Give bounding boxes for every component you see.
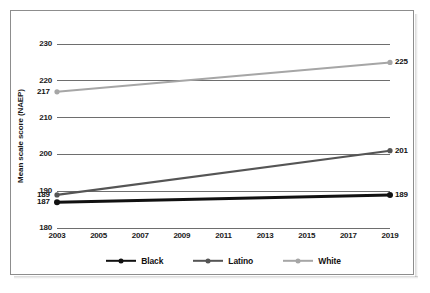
x-tick-2019: 2019 bbox=[382, 231, 399, 240]
value-label-white-2019: 225 bbox=[395, 57, 408, 66]
x-tick-2005: 2005 bbox=[90, 231, 107, 240]
series-line-latino bbox=[57, 151, 390, 195]
legend-swatch-latino-icon bbox=[193, 257, 223, 266]
legend-swatch-black-icon bbox=[106, 257, 136, 266]
page-shadow-right bbox=[415, 14, 418, 277]
series-lines bbox=[57, 44, 390, 228]
y-tick-210: 210 bbox=[39, 113, 52, 122]
value-label-latino-2019: 201 bbox=[395, 146, 408, 155]
x-tick-2011: 2011 bbox=[215, 231, 232, 240]
legend-label: White bbox=[318, 256, 341, 266]
value-label-black-2019: 189 bbox=[395, 190, 408, 199]
x-tick-2009: 2009 bbox=[173, 231, 190, 240]
legend-item-white[interactable]: White bbox=[283, 256, 341, 266]
y-tick-220: 220 bbox=[39, 76, 52, 85]
marker-white-2019 bbox=[387, 60, 392, 65]
y-tick-230: 230 bbox=[39, 39, 52, 48]
marker-black-2019 bbox=[387, 192, 393, 198]
value-label-latino-2003: 189 bbox=[37, 190, 50, 199]
chart-figure: Mean scale score (NAEP) 2302202102001901… bbox=[0, 0, 430, 293]
series-line-black bbox=[57, 195, 390, 202]
legend-dot bbox=[206, 259, 211, 264]
x-tick-2017: 2017 bbox=[340, 231, 357, 240]
series-line-white bbox=[57, 62, 390, 91]
chart-legend: BlackLatinoWhite bbox=[57, 252, 390, 270]
x-tick-2015: 2015 bbox=[298, 231, 315, 240]
x-tick-2007: 2007 bbox=[132, 231, 149, 240]
marker-latino-2019 bbox=[387, 148, 392, 153]
legend-swatch-white-icon bbox=[283, 257, 313, 266]
marker-latino-2003 bbox=[54, 192, 59, 197]
value-label-white-2003: 217 bbox=[37, 87, 50, 96]
y-tick-200: 200 bbox=[39, 149, 52, 158]
legend-dot bbox=[119, 259, 124, 264]
marker-black-2003 bbox=[54, 199, 60, 205]
legend-label: Latino bbox=[228, 256, 253, 266]
x-tick-2013: 2013 bbox=[257, 231, 274, 240]
marker-white-2003 bbox=[54, 89, 59, 94]
x-axis-tick-labels: 200320052007200920112013201520172019 bbox=[57, 231, 390, 245]
x-tick-2003: 2003 bbox=[49, 231, 66, 240]
legend-dot bbox=[296, 259, 301, 264]
legend-label: Black bbox=[141, 256, 163, 266]
legend-item-black[interactable]: Black bbox=[106, 256, 163, 266]
legend-item-latino[interactable]: Latino bbox=[193, 256, 253, 266]
page-shadow-bottom bbox=[14, 276, 418, 279]
plot-area: 187189189201217225 bbox=[57, 44, 390, 228]
